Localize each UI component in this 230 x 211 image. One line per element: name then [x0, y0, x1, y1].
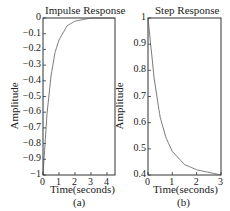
y-tick-label: 1 — [141, 11, 146, 22]
y-tick-label: −0.6 — [23, 105, 41, 116]
plot-b-ticks — [148, 18, 221, 175]
x-tick-label: 1 — [56, 176, 61, 187]
plot-b-frame — [148, 18, 221, 175]
y-tick-label: 0.7 — [134, 90, 147, 101]
y-tick-label: −1 — [30, 168, 41, 179]
y-tick-label: −0.8 — [23, 137, 41, 148]
plot-a-ylabel: Amplitude — [8, 82, 20, 129]
x-tick-label: 2 — [194, 176, 199, 187]
y-tick-label: −0.5 — [23, 90, 41, 101]
y-tick-label: −0.2 — [23, 42, 41, 53]
plot-a-caption: (a) — [73, 196, 85, 208]
y-tick-label: 0.5 — [134, 142, 147, 153]
plot-a-frame — [43, 18, 115, 175]
y-tick-label: 0.8 — [134, 63, 147, 74]
y-tick-label: −0.7 — [23, 121, 41, 132]
y-tick-label: −0.4 — [23, 74, 41, 85]
plot-b-ylabel: Amplitude — [113, 82, 125, 129]
y-tick-label: 0.9 — [134, 37, 147, 48]
x-tick-label: 4 — [104, 176, 109, 187]
impulse-curve — [43, 18, 115, 175]
x-tick-label: 2 — [72, 176, 77, 187]
x-tick-label: 3 — [88, 176, 93, 187]
y-tick-label: 0.4 — [134, 168, 147, 179]
y-tick-label: 0.6 — [134, 116, 147, 127]
x-tick-label: 3 — [218, 176, 223, 187]
plot-a-title: Impulse Response — [45, 4, 125, 16]
plot-b-title: Step Response — [155, 4, 219, 16]
y-tick-label: −0.9 — [23, 152, 41, 163]
plot-b-caption: (b) — [177, 196, 190, 208]
x-tick-label: 1 — [169, 176, 174, 187]
plot-a-ticks — [43, 18, 107, 175]
y-tick-label: 0 — [36, 11, 41, 22]
step-curve — [148, 18, 221, 175]
plot-b-xlabel: Time(seconds) — [153, 183, 218, 195]
y-tick-label: −0.3 — [23, 58, 41, 69]
y-tick-label: −0.1 — [23, 27, 41, 38]
